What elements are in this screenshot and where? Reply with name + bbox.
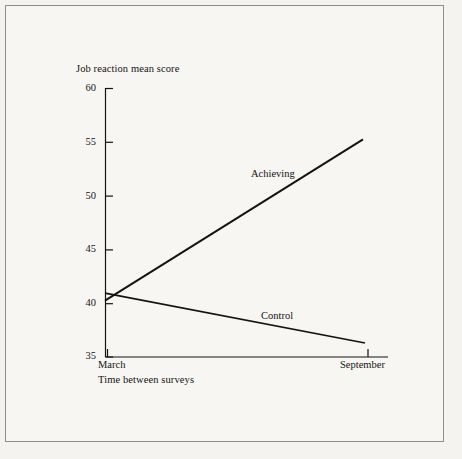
series-label-control: Control	[261, 310, 293, 321]
x-axis-title: Time between surveys	[98, 374, 194, 385]
series-line-achieving	[105, 139, 363, 300]
y-tick-marks	[106, 89, 114, 358]
x-tick-label-march: March	[98, 359, 125, 370]
y-tick-label-50: 50	[74, 190, 96, 201]
chart-page: Job reaction mean score Time between sur…	[0, 0, 462, 459]
x-tick-marks	[108, 349, 369, 357]
y-tick-label-60: 60	[74, 82, 96, 93]
y-tick-label-40: 40	[74, 297, 96, 308]
series-line-control	[105, 293, 365, 343]
y-tick-label-55: 55	[74, 136, 96, 147]
y-tick-label-45: 45	[74, 243, 96, 254]
y-axis-title: Job reaction mean score	[76, 63, 179, 74]
line-chart-plot	[0, 0, 462, 459]
x-tick-label-september: September	[340, 359, 385, 370]
y-tick-label-35: 35	[74, 350, 96, 361]
series-label-achieving: Achieving	[251, 168, 295, 179]
